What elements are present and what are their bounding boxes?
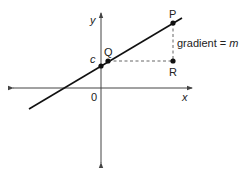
gradient-annotation: gradient = m (177, 37, 238, 49)
y-axis-label: y (89, 14, 97, 26)
origin-label: 0 (91, 91, 97, 103)
gradient-symbol: m (229, 37, 238, 49)
point-Q (105, 58, 110, 63)
point-intercept-c (98, 63, 103, 68)
gradient-prefix: gradient = (177, 37, 229, 49)
point-Q-label: Q (104, 46, 113, 58)
intercept-label: c (90, 53, 96, 65)
point-P (170, 20, 175, 25)
x-axis-label: x (181, 91, 188, 103)
graph-line (29, 18, 182, 109)
coordinate-diagram: y x 0 c Q P R gradient = m (0, 0, 248, 173)
point-P-label: P (169, 8, 176, 20)
point-R (170, 58, 175, 63)
point-R-label: R (169, 66, 177, 78)
